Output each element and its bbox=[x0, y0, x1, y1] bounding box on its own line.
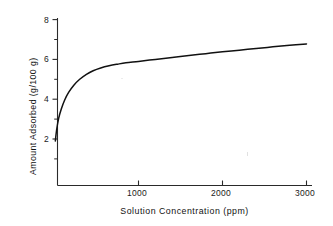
x-tick-label-3000: 3000 bbox=[295, 188, 315, 198]
isotherm-curve bbox=[55, 44, 306, 141]
y-axis-title: Amount Adsorbed (g/100 g) bbox=[28, 57, 38, 175]
x-tick-label-1000: 1000 bbox=[127, 188, 147, 198]
x-axis-major-ticks bbox=[139, 181, 307, 186]
plot-area bbox=[0, 0, 333, 226]
y-tick-label-6: 6 bbox=[44, 54, 49, 64]
y-tick-label-2: 2 bbox=[44, 134, 49, 144]
x-axis-title: Solution Concentration (ppm) bbox=[57, 206, 312, 216]
y-tick-label-8: 8 bbox=[44, 15, 49, 25]
scan-speck bbox=[121, 78, 123, 79]
chart-figure: 8 6 4 2 1000 2000 3000 Amount Adsorbed (… bbox=[0, 0, 333, 226]
x-tick-label-2000: 2000 bbox=[211, 188, 231, 198]
scan-speck bbox=[247, 152, 248, 156]
y-tick-label-4: 4 bbox=[44, 94, 49, 104]
